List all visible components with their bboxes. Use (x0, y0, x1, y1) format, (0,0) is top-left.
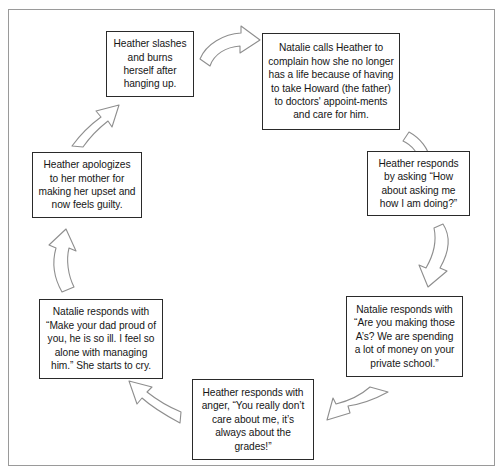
cycle-node-text: Heather apologizes to her mother for mak… (38, 158, 136, 212)
cycle-node-natalie-grades: Natalie responds with “Are you making th… (346, 296, 463, 377)
cycle-node-heather-anger: Heather responds with anger, “You really… (192, 379, 314, 460)
cycle-node-text: Natalie responds with “Are you making th… (352, 303, 457, 370)
cycle-node-text: Heather responds with anger, “You really… (198, 386, 308, 453)
cycle-node-heather-apologizes: Heather apologizes to her mother for mak… (32, 152, 142, 218)
diagram-canvas: Heather slashes and burns herself after … (0, 0, 504, 476)
cycle-node-heather-asks: Heather responds by asking “How about as… (367, 151, 470, 216)
cycle-node-natalie-guilt: Natalie responds with “Make your dad pro… (39, 299, 163, 379)
cycle-node-heather-slashes: Heather slashes and burns herself after … (106, 31, 194, 97)
cycle-node-text: Natalie responds with “Make your dad pro… (45, 305, 157, 372)
cycle-node-text: Natalie calls Heather to complain how sh… (268, 41, 394, 121)
cycle-node-text: Heather responds by asking “How about as… (373, 157, 464, 211)
cycle-node-natalie-calls: Natalie calls Heather to complain how sh… (262, 33, 400, 130)
cycle-node-text: Heather slashes and burns herself after … (112, 37, 188, 91)
